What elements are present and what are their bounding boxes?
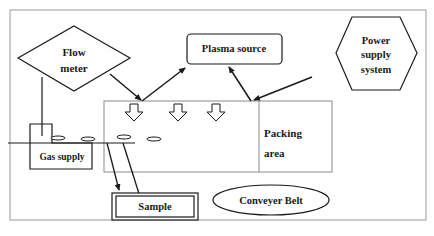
gas-supply-node: Gas supply — [30, 124, 92, 169]
packing-area-label-line1: Packing — [264, 127, 302, 139]
power-supply-label-line2: supply — [361, 49, 392, 60]
down-arrow-icon — [207, 104, 225, 121]
sample-label: Sample — [138, 201, 172, 212]
down-arrow-icon — [125, 104, 143, 121]
flow-meter-label-line1: Flow — [62, 46, 85, 58]
down-arrow-icon — [169, 104, 187, 121]
gas-supply-label: Gas supply — [39, 152, 84, 162]
power-supply-label-line1: Power — [362, 35, 391, 46]
power-to-chamber-arrow — [254, 77, 312, 100]
packing-area-label-line2: area — [264, 147, 285, 159]
line-to-sample-arrow — [107, 143, 119, 190]
plasma-source-label: Plasma source — [202, 43, 267, 54]
product-items — [51, 135, 161, 141]
chamber-to-plasma-arrow-right — [229, 67, 251, 101]
power-supply-label-line3: system — [361, 64, 392, 75]
chamber-to-plasma-arrow — [142, 68, 185, 101]
process-diagram: Flow meter Plasma source Power supply sy… — [0, 0, 434, 236]
conveyer-belt-node: Conveyer Belt — [213, 185, 329, 215]
flow-meter-node: Flow meter — [18, 26, 130, 91]
conveyer-belt-label: Conveyer Belt — [239, 195, 303, 206]
sample-node: Sample — [112, 193, 198, 220]
plasma-source-node: Plasma source — [187, 34, 282, 64]
plasma-flow-arrow-icons — [125, 104, 225, 121]
flow-meter-to-chamber-arrow — [110, 74, 141, 100]
power-supply-node: Power supply system — [336, 17, 417, 90]
flow-meter-label-line2: meter — [60, 62, 88, 74]
